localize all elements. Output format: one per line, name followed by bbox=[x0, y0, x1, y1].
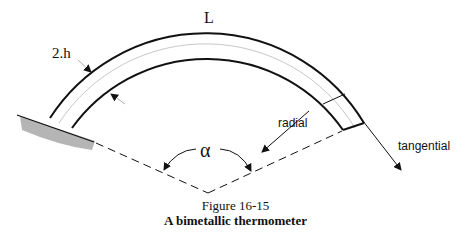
figure-caption: Figure 16-15 A bimetallic thermometer bbox=[0, 198, 471, 228]
section-line bbox=[323, 94, 345, 104]
radial-label: radial bbox=[278, 117, 307, 129]
interface-midline bbox=[59, 44, 355, 128]
angle-label: α bbox=[200, 140, 210, 160]
angle-lines bbox=[96, 131, 342, 193]
figure-number: Figure 16-15 bbox=[0, 198, 471, 213]
bimetallic-thermometer-figure: L 2.h α radial tangential Figure 16-15 A… bbox=[0, 0, 471, 234]
thickness-label: 2.h bbox=[52, 46, 71, 61]
free-end-cap bbox=[343, 123, 364, 130]
bimetallic-strip bbox=[50, 33, 364, 130]
length-label: L bbox=[204, 10, 214, 26]
tangential-arrow bbox=[363, 121, 401, 170]
tangential-label: tangential bbox=[398, 140, 450, 152]
fixed-support bbox=[17, 115, 95, 150]
outer-layer-arc bbox=[50, 33, 364, 123]
figure-title: A bimetallic thermometer bbox=[0, 213, 471, 228]
